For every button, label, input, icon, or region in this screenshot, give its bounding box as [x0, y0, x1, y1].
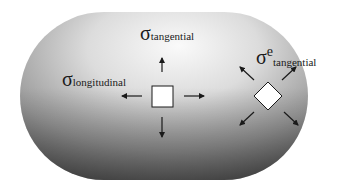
stress-diagram: σtangential σlongitudinal σetangential [0, 0, 340, 193]
label-sigma-longitudinal: σlongitudinal [62, 68, 126, 91]
sigma-symbol: σ [256, 46, 267, 68]
subscript-tangential: tangential [151, 30, 194, 42]
subscript-longitudinal: longitudinal [73, 76, 126, 88]
subscript-tangential: tangential [273, 56, 316, 68]
sigma-symbol: σ [62, 68, 73, 90]
label-sigma-e-tangential: σetangential [256, 46, 316, 69]
label-sigma-tangential: σtangential [140, 22, 194, 45]
sigma-symbol: σ [140, 22, 151, 44]
